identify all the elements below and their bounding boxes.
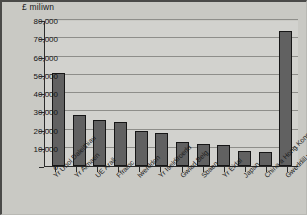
y-axis-tick-label: 60,000 <box>18 53 58 62</box>
bar-slot <box>193 21 214 166</box>
bar-slot <box>151 21 172 166</box>
y-axis-tick-mark <box>39 58 44 59</box>
y-axis-tick-mark <box>39 76 44 77</box>
y-axis-tick-label: 40,000 <box>18 90 58 99</box>
bar-chart: £ miliwn 010,00020,00030,00040,00050,000… <box>0 0 307 215</box>
bar <box>217 145 230 166</box>
bar-slot <box>89 21 110 166</box>
y-axis-tick-mark <box>39 21 44 22</box>
gridline <box>45 19 298 20</box>
bar-slot <box>131 21 152 166</box>
y-axis-tick-mark <box>39 112 44 113</box>
bar-slot <box>110 21 131 166</box>
bar-slot <box>255 21 276 166</box>
y-axis-tick-mark <box>39 131 44 132</box>
bar <box>259 152 272 166</box>
y-axis-tick-label: 0 <box>18 163 58 172</box>
bar-slot <box>234 21 255 166</box>
bar <box>135 131 148 166</box>
bar-slot <box>213 21 234 166</box>
y-axis-tick-mark <box>39 167 44 168</box>
y-axis-tick-mark <box>39 149 44 150</box>
y-axis-tick-label: 70,000 <box>18 35 58 44</box>
y-axis-title: £ miliwn <box>22 2 54 12</box>
y-axis-tick-label: 10,000 <box>18 144 58 153</box>
y-axis-tick-label: 30,000 <box>18 108 58 117</box>
y-axis-tick-label: 80,000 <box>18 17 58 26</box>
y-axis-tick-label: 50,000 <box>18 71 58 80</box>
y-axis-tick-mark <box>39 39 44 40</box>
y-axis-tick-label: 20,000 <box>18 126 58 135</box>
bar-slot <box>172 21 193 166</box>
y-axis-tick-mark <box>39 94 44 95</box>
